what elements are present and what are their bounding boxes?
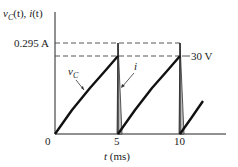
current-level-label: 0.295 A xyxy=(14,37,49,49)
x-axis-label: t (ms) xyxy=(104,150,130,163)
vc-sawtooth-curve-2 xyxy=(118,56,180,134)
vc-sawtooth-curve xyxy=(55,56,118,134)
x-tick-10: 10 xyxy=(174,135,186,147)
vc-i-waveform-chart: vC(t), i(t) 0.295 A 30 V vC i 0 5 10 t (… xyxy=(0,0,238,167)
vc-curve-label: vC xyxy=(68,65,79,80)
y-axis-label: vC(t), i(t) xyxy=(3,7,43,22)
x-tick-0: 0 xyxy=(45,135,51,147)
i-label-arrow xyxy=(122,73,134,87)
i-curve-label: i xyxy=(134,60,137,72)
voltage-level-label: 30 V xyxy=(191,50,213,62)
x-tick-5: 5 xyxy=(114,135,120,147)
